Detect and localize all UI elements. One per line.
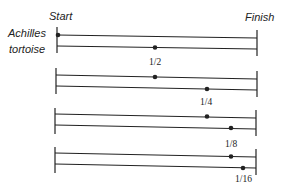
- start-label: Start: [49, 10, 73, 22]
- tortoise-track: [56, 86, 257, 90]
- tortoise-track: [55, 164, 256, 168]
- stage-4: [55, 147, 256, 175]
- achilles-dot: [229, 154, 234, 159]
- fraction-label: 1/2: [149, 57, 161, 67]
- achilles-track: [55, 153, 256, 157]
- achilles-label: Achilles: [7, 27, 46, 39]
- tortoise-label: tortoise: [9, 43, 45, 55]
- achilles-dot: [56, 33, 61, 38]
- tortoise-dot: [205, 87, 210, 92]
- tortoise-track: [55, 125, 256, 129]
- fraction-label: 1/8: [225, 139, 237, 149]
- fraction-label: 1/16: [235, 174, 252, 184]
- fraction-label: 1/4: [200, 97, 212, 107]
- achilles-tortoise-diagram: Start Finish Achilles tortoise 1/2 1/4 1…: [0, 0, 281, 191]
- stage-2: [56, 68, 257, 97]
- tortoise-dot: [241, 166, 246, 171]
- achilles-dot: [153, 75, 158, 80]
- achilles-dot: [205, 114, 210, 119]
- stage-3: [55, 108, 256, 136]
- achilles-track: [57, 35, 257, 38]
- stage-1: [57, 27, 257, 56]
- tortoise-dot: [153, 45, 158, 50]
- achilles-track: [55, 114, 256, 118]
- finish-label: Finish: [245, 11, 274, 23]
- tortoise-dot: [229, 126, 234, 131]
